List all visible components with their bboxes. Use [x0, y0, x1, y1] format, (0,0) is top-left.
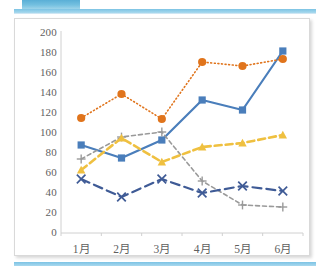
top-decoration-band: [0, 0, 316, 18]
x-axis-tick-label: 5月: [234, 243, 251, 255]
chart-card[interactable]: 200180160140120100806040200 1月2月3月4月5月6月: [14, 18, 310, 256]
x-axis-tick-label: 6月: [274, 243, 291, 255]
x-axis-tick-label: 1月: [73, 243, 90, 255]
x-axis-tick-label: 3月: [153, 243, 170, 255]
x-axis-tick-labels: 1月2月3月4月5月6月: [15, 19, 311, 257]
bottom-decoration-band: [14, 262, 316, 266]
x-axis-tick-label: 2月: [113, 243, 130, 255]
screenshot-root: 200180160140120100806040200 1月2月3月4月5月6月: [0, 0, 316, 268]
x-axis-tick-label: 4月: [194, 243, 211, 255]
banner-block: [22, 0, 80, 9]
plot-area: 200180160140120100806040200 1月2月3月4月5月6月: [15, 19, 311, 257]
banner-rule-secondary: [14, 13, 316, 14]
